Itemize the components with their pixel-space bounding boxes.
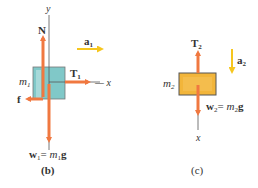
x-axis-label: — x [95, 78, 111, 88]
y-axis-label: y [46, 4, 50, 14]
tension-t1-label: T1 [70, 68, 81, 81]
tension-t2-label: T2 [191, 38, 202, 51]
accel-a1-label: a1 [84, 36, 93, 49]
caption-c: (c) [191, 165, 203, 176]
normal-force-label: N [38, 25, 46, 36]
friction-label: f [17, 94, 21, 105]
weight-w1-label: w1= m1g [29, 149, 66, 162]
panel-c-diagram [179, 49, 232, 130]
mass-m1-label: m1 [19, 76, 30, 89]
x-axis-label-c: x [196, 133, 200, 143]
mass-m2-label: m2 [163, 78, 174, 91]
caption-b: (b) [41, 165, 54, 176]
accel-a2-label: a2 [237, 55, 246, 68]
weight-w2-label: w2= m2g [206, 101, 243, 114]
